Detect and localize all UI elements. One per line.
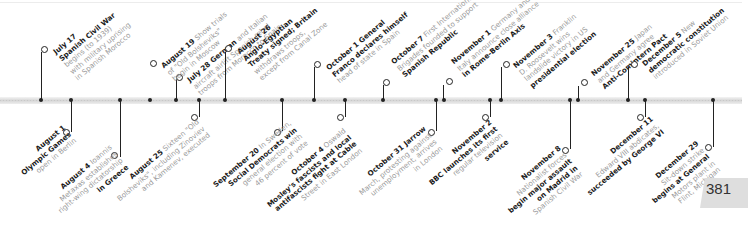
connector-stem (570, 101, 571, 149)
connector-stem (120, 101, 121, 157)
event-aug26: August 26 Anglo-Egyptian Treaty signed; … (236, 0, 331, 83)
timeline-dot (118, 98, 122, 102)
connector-stem (41, 52, 42, 99)
timeline-dot (711, 98, 715, 102)
timeline-dot (69, 98, 73, 102)
timeline-dot (643, 98, 647, 102)
timeline-dot (39, 98, 43, 102)
timeline-dot (488, 98, 492, 102)
timeline-dot (148, 98, 152, 102)
timeline-bar (0, 97, 742, 104)
connector-stem (199, 101, 200, 117)
event-marker-icon (383, 79, 390, 86)
timeline-dot (434, 98, 438, 102)
connector-stem (501, 67, 502, 99)
timeline-dot (197, 98, 201, 102)
event-nov8: November 8 Nationalist forces begin majo… (496, 144, 585, 229)
timeline-dot (312, 98, 316, 102)
connector-stem (490, 101, 491, 117)
connector-stem (713, 101, 714, 147)
connector-stem (383, 85, 384, 99)
event-marker-icon (225, 45, 232, 52)
event-marker-icon (150, 60, 157, 67)
timeline-dot (280, 98, 284, 102)
page-number: 381 (706, 180, 731, 197)
connector-stem (345, 101, 346, 117)
event-text: Bolsheviks", including Zinoviev (116, 125, 207, 204)
timeline-dot (223, 98, 227, 102)
timeline-dot (174, 98, 178, 102)
event-marker-icon (446, 78, 453, 85)
event-marker-icon (337, 114, 344, 121)
timeline-dot (442, 98, 446, 102)
timeline-dot (499, 98, 503, 102)
connector-stem (436, 101, 437, 131)
timeline-dot (568, 98, 572, 102)
connector-stem (71, 101, 72, 132)
event-jul17: July 17 Spanish Civil War begins (to 193… (52, 1, 138, 83)
connector-stem (645, 101, 646, 117)
event-marker-icon (581, 79, 588, 86)
event-marker-icon (503, 61, 510, 68)
connector-stem (443, 85, 444, 99)
event-marker-icon (41, 46, 48, 53)
timeline-dot (576, 98, 580, 102)
event-marker-icon (314, 61, 321, 68)
timeline-dot (381, 98, 385, 102)
connector-stem (314, 67, 315, 99)
event-marker-icon (705, 144, 712, 151)
timeline-dot (343, 98, 347, 102)
connector-stem (628, 67, 629, 99)
timeline-dot (626, 98, 630, 102)
connector-stem (225, 52, 226, 99)
event-marker-icon (631, 61, 638, 68)
